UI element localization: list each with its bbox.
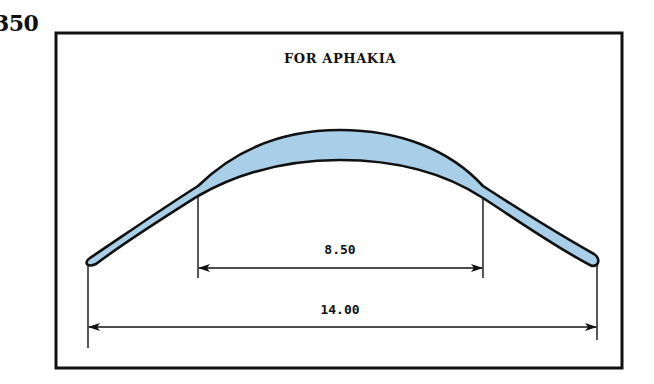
dimension-label-overall-diameter: 14.00 — [320, 302, 359, 317]
figure-frame — [56, 33, 622, 368]
lens-diagram: FOR APHAKIA 8.50 14.00 — [0, 0, 654, 384]
dimension-label-optic-zone: 8.50 — [324, 242, 355, 257]
figure-title: FOR APHAKIA — [284, 51, 396, 66]
